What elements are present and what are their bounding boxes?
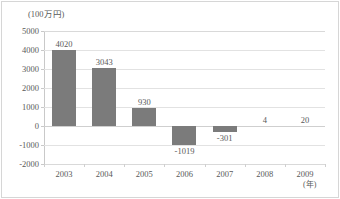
- y-axis-tick-label: 5000: [22, 26, 39, 36]
- x-axis-tick-mark: [164, 164, 165, 167]
- y-axis-tick-label: 2000: [22, 83, 39, 93]
- y-axis-tick-label: 0: [35, 121, 39, 131]
- bar: [52, 50, 76, 126]
- y-axis-tick-label: 3000: [22, 64, 39, 74]
- x-axis-tick-mark: [84, 164, 85, 167]
- bar: [172, 126, 196, 145]
- y-axis-tick-label: -1000: [19, 140, 39, 150]
- bar-group: 930: [124, 31, 164, 164]
- x-axis-unit-label: (年): [303, 180, 316, 190]
- bar-group: 4: [245, 31, 285, 164]
- y-axis-tick-label: -2000: [19, 159, 39, 169]
- bar: [132, 108, 156, 126]
- gridline: [44, 164, 325, 165]
- bars-layer: 40203043930-1019-301420: [44, 31, 325, 164]
- bar: [213, 126, 237, 132]
- bar-group: -301: [205, 31, 245, 164]
- y-axis-tick-label: 1000: [22, 102, 39, 112]
- x-axis-tick-mark: [124, 164, 125, 167]
- x-axis-tick-label: 2009: [275, 169, 335, 179]
- bar-value-label: 20: [275, 115, 335, 125]
- x-axis-tick-mark: [205, 164, 206, 167]
- bar-group: 20: [285, 31, 325, 164]
- plot-area: 500040003000200010000-1000-2000 40203043…: [44, 31, 325, 164]
- bar-group: -1019: [164, 31, 204, 164]
- x-axis-tick-mark: [44, 164, 45, 167]
- x-axis-tick-mark: [285, 164, 286, 167]
- bar-chart: (100万円) 500040003000200010000-1000-2000 …: [0, 0, 340, 199]
- bar-group: 4020: [44, 31, 84, 164]
- x-axis-tick-mark: [245, 164, 246, 167]
- bar: [92, 68, 116, 126]
- y-axis-unit-label: (100万円): [28, 9, 64, 20]
- x-axis-tick-mark: [325, 164, 326, 167]
